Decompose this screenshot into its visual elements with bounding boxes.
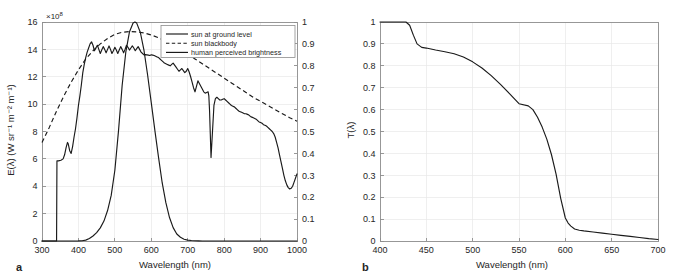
chart-panel-a: 3004005006007008009001000 0246810121416 … — [0, 0, 340, 277]
legend-label-1: sun blackbody — [191, 39, 237, 48]
y-tick-label-right: 0.3 — [302, 171, 315, 181]
x-tick-label: 900 — [253, 245, 268, 255]
panel-a-x-tick-labels: 3004005006007008009001000 — [34, 245, 307, 255]
y-tick-label-right: 0.2 — [302, 192, 315, 202]
y-tick-label-right: 0.4 — [302, 149, 315, 159]
y-tick-label-right: 0 — [302, 236, 307, 246]
y-tick-label-right: 0.5 — [302, 127, 315, 137]
x-tick-label: 700 — [650, 245, 665, 255]
chart-panel-b: 400450500550600650700 00.10.20.30.40.50.… — [340, 0, 674, 277]
y-tick-label: 0.6 — [363, 105, 376, 115]
panel-a-legend: sun at ground levelsun blackbodyhuman pe… — [161, 26, 295, 58]
panel-b-y-axis-label: T(λ) — [345, 122, 356, 139]
y-tick-label: 0.3 — [363, 171, 376, 181]
panel-b-svg: 400450500550600650700 00.10.20.30.40.50.… — [340, 0, 674, 277]
panel-a-y-exponent-label: ×108 — [46, 11, 64, 21]
panel-b-gridlines — [380, 22, 658, 241]
y-tick-label-left: 4 — [32, 181, 37, 191]
y-tick-label: 0.9 — [363, 39, 376, 49]
x-tick-label: 400 — [71, 245, 86, 255]
figure-container: 3004005006007008009001000 0246810121416 … — [0, 0, 674, 277]
x-tick-label: 550 — [511, 245, 526, 255]
panel-b-x-tick-labels: 400450500550600650700 — [372, 245, 665, 255]
y-tick-label-left: 6 — [32, 154, 37, 164]
x-tick-label: 600 — [558, 245, 573, 255]
x-tick-label: 500 — [107, 245, 122, 255]
y-tick-label-right: 0.6 — [302, 105, 315, 115]
y-tick-label-right: 0.8 — [302, 61, 315, 71]
y-tick-label: 0.4 — [363, 149, 376, 159]
y-tick-label: 0 — [370, 236, 375, 246]
panel-a-y-tick-labels: 0246810121416 — [27, 17, 37, 246]
y-tick-label: 1 — [370, 17, 375, 27]
panel-a-x-axis-label: Wavelength (nm) — [139, 259, 211, 270]
panel-b-y-tick-labels: 00.10.20.30.40.50.60.70.80.91 — [363, 17, 376, 246]
x-tick-label: 800 — [217, 245, 232, 255]
legend-label-0: sun at ground level — [191, 30, 252, 39]
legend-label-2: human perceived brightness — [191, 48, 282, 57]
y-tick-label: 0.7 — [363, 83, 376, 93]
y-tick-label-right: 0.1 — [302, 214, 315, 224]
y-tick-label-left: 0 — [32, 236, 37, 246]
y-tick-label-right: 0.9 — [302, 39, 315, 49]
y-tick-label-left: 16 — [27, 17, 37, 27]
y-tick-label-left: 12 — [27, 72, 37, 82]
x-tick-label: 700 — [180, 245, 195, 255]
panel-a-y-axis-label: E(λ) (W sr⁻¹ m⁻² m⁻¹) — [5, 84, 16, 176]
panel-a-letter: a — [16, 261, 23, 273]
x-tick-label: 600 — [144, 245, 159, 255]
y-tick-label-left: 10 — [27, 99, 37, 109]
x-tick-label: 650 — [604, 245, 619, 255]
series-sun-at-ground-level — [42, 42, 297, 241]
y-tick-label-left: 14 — [27, 45, 37, 55]
y-tick-label-right: 0.7 — [302, 83, 315, 93]
y-tick-label-left: 2 — [32, 209, 37, 219]
panel-a-svg: 3004005006007008009001000 0246810121416 … — [0, 0, 340, 277]
panel-b-x-axis-label: Wavelength (nm) — [476, 259, 548, 270]
y-tick-label: 0.1 — [363, 214, 376, 224]
y-tick-label: 0.8 — [363, 61, 376, 71]
panel-b-letter: b — [362, 261, 369, 273]
x-tick-label: 450 — [419, 245, 434, 255]
y-tick-label-left: 8 — [32, 127, 37, 137]
x-tick-label: 500 — [465, 245, 480, 255]
y-tick-label-right: 1 — [302, 17, 307, 27]
panel-a-y2-tick-labels: 00.10.20.30.40.50.60.70.80.91 — [302, 17, 315, 246]
y-tick-label: 0.2 — [363, 192, 376, 202]
y-tick-label: 0.5 — [363, 127, 376, 137]
